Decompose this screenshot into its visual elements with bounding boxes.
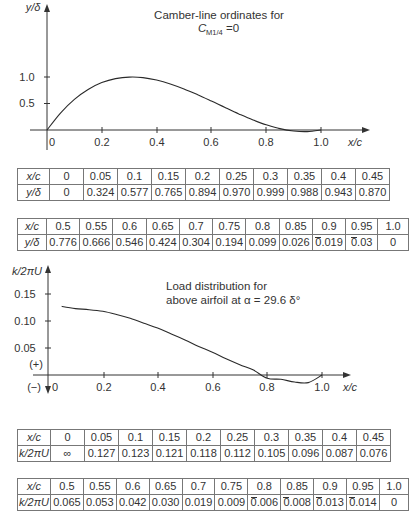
row-header: x/c xyxy=(18,479,51,495)
x-axis-arrow-icon xyxy=(362,127,370,133)
x-axis-label: x/c xyxy=(342,381,358,393)
load-table-2: x/c0.50.550.60.650.70.750.80.850.90.951.… xyxy=(17,478,409,511)
table-cell: 0.123 xyxy=(119,446,153,462)
table-cell: 0.8 xyxy=(246,219,279,235)
table-cell: 0.3 xyxy=(254,169,288,185)
table-cell: 0.121 xyxy=(153,446,187,462)
table-row: x/c0.50.550.60.650.70.750.80.850.90.951.… xyxy=(18,219,409,235)
table-cell: 0.666 xyxy=(80,235,113,251)
table-cell: 0.013 xyxy=(314,495,347,511)
table-cell: 0.099 xyxy=(246,235,279,251)
camber-curve xyxy=(47,77,321,132)
table-cell: 0.35 xyxy=(288,169,322,185)
table-cell: 0.4 xyxy=(323,430,357,446)
table-cell: 0.042 xyxy=(116,495,149,511)
table-cell: 0.65 xyxy=(149,479,182,495)
chart-title-subscript: M1/4 xyxy=(206,28,223,37)
table-cell: 0.35 xyxy=(289,430,323,446)
table-cell: 0.988 xyxy=(288,185,322,201)
table-row: k/2πU0.0650.0530.0420.0300.0190.0090.006… xyxy=(18,495,409,511)
table-cell: 0.019 xyxy=(182,495,215,511)
x-axis-label: x/c xyxy=(347,136,363,148)
table-cell: 0.053 xyxy=(83,495,116,511)
table-cell: 0.85 xyxy=(281,479,314,495)
table-cell: 0 xyxy=(50,169,84,185)
table-cell: 0.1 xyxy=(119,430,153,446)
table-cell: 0.065 xyxy=(51,495,84,511)
table-cell: 0.85 xyxy=(279,219,312,235)
table-cell: 0.9 xyxy=(314,479,347,495)
svg-text:0.2: 0.2 xyxy=(96,381,111,393)
table-cell: 0.026 xyxy=(279,235,312,251)
svg-text:0.6: 0.6 xyxy=(203,136,218,148)
table-cell: 0.019 xyxy=(312,235,345,251)
row-header: k/2πU xyxy=(18,495,51,511)
table-cell: 0.6 xyxy=(116,479,149,495)
positive-sign-label: (+) xyxy=(29,358,43,370)
table-cell: 0.5 xyxy=(51,479,84,495)
row-header: y/δ xyxy=(18,235,47,251)
table-cell: 0.324 xyxy=(84,185,118,201)
x-axis-arrow-icon xyxy=(343,372,351,378)
svg-text:0.15: 0.15 xyxy=(14,288,35,300)
table-cell: 0.118 xyxy=(187,446,221,462)
row-header: y/δ xyxy=(18,185,50,201)
table-cell: 0.3 xyxy=(255,430,289,446)
svg-text:0.6: 0.6 xyxy=(205,381,220,393)
table-cell: 0 xyxy=(51,430,85,446)
svg-text:0.8: 0.8 xyxy=(258,136,273,148)
table-cell: 0.008 xyxy=(281,495,314,511)
chart-title-line1: Camber-line ordinates for xyxy=(154,9,284,21)
chart-annotation-line2: above airfoil at α = 29.6 δ° xyxy=(166,294,300,306)
svg-text:1.0: 1.0 xyxy=(19,71,34,83)
row-header: x/c xyxy=(18,169,50,185)
table-cell: 0.014 xyxy=(347,495,380,511)
table-cell: 0.4 xyxy=(322,169,356,185)
table-cell: 0 xyxy=(378,235,409,251)
table-cell: 0 xyxy=(379,495,408,511)
table-cell: ∞ xyxy=(51,446,85,462)
table-cell: 0.2 xyxy=(186,169,220,185)
table-cell: 0.870 xyxy=(356,185,390,201)
svg-text:0.8: 0.8 xyxy=(259,381,274,393)
row-header: x/c xyxy=(18,219,47,235)
table-cell: 0.55 xyxy=(83,479,116,495)
table-cell: 0.943 xyxy=(322,185,356,201)
svg-text:0: 0 xyxy=(49,136,55,148)
svg-text:0: 0 xyxy=(52,381,58,393)
table-cell: 0.5 xyxy=(46,219,79,235)
load-table-1: x/c00.050.10.150.20.250.30.350.40.45 k/2… xyxy=(17,429,391,462)
table-cell: 0.194 xyxy=(213,235,246,251)
table-cell: 0.127 xyxy=(85,446,119,462)
table-cell: 0.65 xyxy=(146,219,179,235)
svg-text:0.5: 0.5 xyxy=(19,97,34,109)
table-cell: 0.45 xyxy=(356,169,390,185)
table-cell: 0.45 xyxy=(357,430,391,446)
camber-line-chart: 1.0 0.5 0 0.2 0.4 0.6 0.8 1.0 x/c y/δ Ca… xyxy=(0,0,409,160)
table-row: y/δ00.3240.5770.7650.8940.9700.9990.9880… xyxy=(18,185,390,201)
table-row: x/c0.50.550.60.650.70.750.80.850.90.951.… xyxy=(18,479,409,495)
svg-text:0.10: 0.10 xyxy=(14,315,35,327)
table-cell: 0.577 xyxy=(118,185,152,201)
y-axis-arrow-icon xyxy=(44,4,50,12)
table-cell: 1.0 xyxy=(378,219,409,235)
table-cell: 0.765 xyxy=(152,185,186,201)
table-cell: 0.15 xyxy=(153,430,187,446)
table-cell: 0.7 xyxy=(182,479,215,495)
table-cell: 0.6 xyxy=(113,219,146,235)
chart-title-tail: =0 xyxy=(226,22,239,34)
y-axis-down-arrow-icon xyxy=(45,386,51,394)
table-cell: 0.105 xyxy=(255,446,289,462)
table-cell: 0.75 xyxy=(213,219,246,235)
negative-sign-label: (−) xyxy=(27,381,41,393)
svg-text:0.4: 0.4 xyxy=(150,381,165,393)
table-cell: 0.999 xyxy=(254,185,288,201)
table-cell: 0.1 xyxy=(118,169,152,185)
table-cell: 0.25 xyxy=(220,169,254,185)
table-cell: 0.8 xyxy=(248,479,281,495)
table-cell: 0.546 xyxy=(113,235,146,251)
camber-table-2: x/c0.50.550.60.650.70.750.80.850.90.951.… xyxy=(17,218,409,251)
table-cell: 0.006 xyxy=(248,495,281,511)
y-axis-arrow-icon xyxy=(45,265,51,273)
table-row: x/c00.050.10.150.20.250.30.350.40.45 xyxy=(18,169,390,185)
